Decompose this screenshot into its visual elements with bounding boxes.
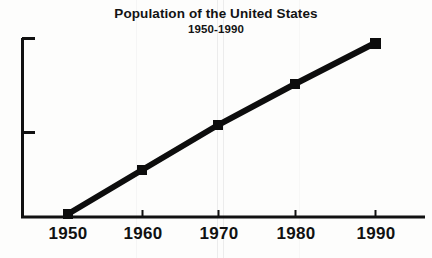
- data-point-marker: [290, 79, 300, 89]
- x-axis-tick-labels: 1950 1960 1970 1980 1990: [0, 224, 432, 250]
- data-point-marker: [63, 209, 73, 219]
- x-axis-label-1980: 1980: [276, 224, 315, 244]
- chart-screenshot: Population of the United States 1950-199…: [0, 0, 432, 258]
- x-axis-label-1990: 1990: [356, 224, 395, 244]
- x-axis-label-1950: 1950: [48, 224, 87, 244]
- data-point-marker: [137, 165, 147, 175]
- plot-area: [0, 0, 432, 258]
- data-point-marker: [370, 38, 381, 49]
- x-axis-label-1970: 1970: [199, 224, 238, 244]
- data-point-marker: [213, 120, 223, 130]
- x-axis-label-1960: 1960: [123, 224, 162, 244]
